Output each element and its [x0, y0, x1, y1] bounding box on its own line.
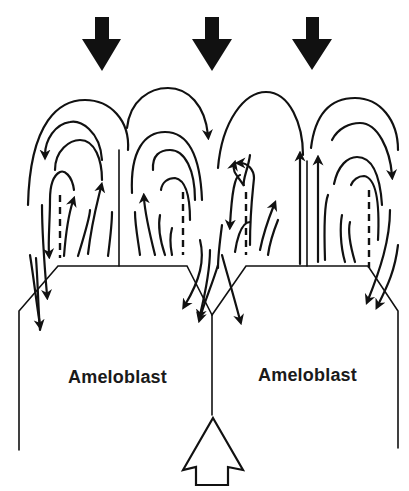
down-arrow-icon — [292, 17, 332, 70]
up-arrow-outline-icon — [183, 418, 243, 485]
field-lines-center-left — [127, 88, 210, 315]
diagram-canvas — [0, 0, 409, 491]
field-lines-right — [311, 98, 398, 305]
ameloblast-diagram: Ameloblast Ameloblast — [0, 0, 409, 491]
down-arrow-icon — [192, 17, 232, 71]
field-lines-center-right — [200, 92, 303, 320]
left-cell-label: Ameloblast — [68, 367, 167, 388]
field-lines-left — [28, 100, 128, 330]
down-arrow-icon — [82, 17, 121, 71]
right-cell-label: Ameloblast — [258, 365, 357, 386]
